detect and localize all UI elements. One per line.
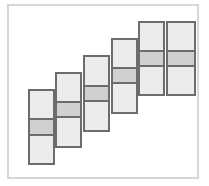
- bar-4: [111, 38, 138, 114]
- bar-band: [57, 101, 80, 118]
- bar-band: [30, 118, 53, 136]
- bar-band: [140, 50, 163, 67]
- bar-band: [168, 50, 194, 67]
- bar-band: [113, 67, 136, 84]
- bar-3: [83, 55, 110, 132]
- bar-band: [85, 85, 108, 102]
- bar-5: [138, 21, 165, 96]
- bar-6: [166, 21, 196, 96]
- bar-2: [55, 72, 82, 148]
- bar-1: [28, 89, 55, 165]
